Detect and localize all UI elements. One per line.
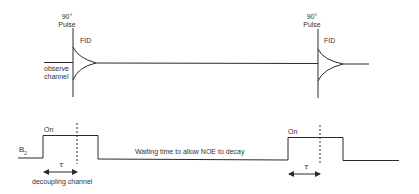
decoupling-channel-label: decoupling channel [32,178,92,186]
tau-label-1: τ [59,161,63,169]
pulse-2-label: 90° Pulse [297,13,327,29]
pulse-2-text: Pulse [297,21,327,29]
fid-2-envelope [318,49,343,81]
b2-field-label: B2 [19,146,27,157]
observe-channel-label: observe channel [44,65,69,81]
on-label-1: On [44,126,53,134]
pulse-2-angle: 90° [297,13,327,21]
on-label-2: On [288,128,297,136]
pulse-1-angle: 90° [52,13,82,21]
tau-arrows [44,172,320,174]
fid-1-label: FID [80,37,91,45]
fid-1-envelope [73,47,96,80]
tau-label-2: τ [304,163,308,171]
pulse-1-label: 90° Pulse [52,13,82,29]
pulse-1-text: Pulse [52,21,82,29]
fid-2-label: FID [324,37,335,45]
waiting-time-label: Waiting time to allow NOE to decay [135,148,244,156]
